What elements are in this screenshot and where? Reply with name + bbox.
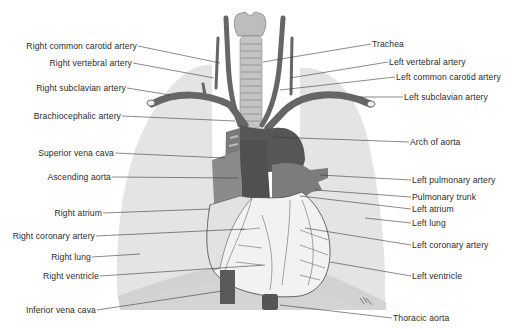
label-pulmonary-trunk: Pulmonary trunk — [412, 192, 476, 202]
label-brachiocephalic-artery: Brachiocephalic artery — [34, 111, 121, 121]
label-trachea: Trachea — [372, 39, 404, 49]
label-right-vertebral-artery: Right vertebral artery — [50, 58, 132, 68]
label-left-vertebral-artery: Left vertebral artery — [389, 57, 466, 67]
left-vertebral — [291, 38, 292, 94]
label-left-pulmonary-artery: Left pulmonary artery — [412, 175, 495, 185]
thoracic-aorta-shape — [262, 294, 278, 310]
label-right-atrium: Right atrium — [54, 208, 102, 218]
label-left-coronary-artery: Left coronary artery — [412, 240, 489, 250]
label-right-common-carotid-artery: Right common carotid artery — [26, 41, 137, 51]
trachea-shape — [234, 12, 266, 128]
label-arch-of-aorta: Arch of aorta — [410, 137, 461, 147]
label-left-common-carotid-artery: Left common carotid artery — [396, 72, 501, 82]
label-right-ventricle: Right ventricle — [43, 271, 99, 281]
label-right-coronary-artery: Right coronary artery — [13, 231, 95, 241]
label-inferior-vena-cava: Inferior vena cava — [26, 305, 96, 315]
label-left-lung: Left lung — [412, 218, 446, 228]
label-right-lung: Right lung — [51, 252, 91, 262]
label-thoracic-aorta: Thoracic aorta — [393, 313, 449, 323]
left-common-carotid — [262, 18, 283, 125]
anatomy-diagram: Right common carotid artery Right verteb… — [0, 0, 512, 329]
label-ascending-aorta: Ascending aorta — [47, 172, 111, 182]
label-right-subclavian-artery: Right subclavian artery — [36, 83, 126, 93]
inferior-vena-cava-shape — [220, 270, 235, 304]
label-left-subclavian-artery: Left subclavian artery — [404, 92, 488, 102]
right-vertebral — [216, 38, 218, 88]
label-left-ventricle: Left ventricle — [412, 271, 462, 281]
ascending-aorta-shape — [240, 140, 270, 202]
label-left-atrium: Left atrium — [412, 204, 454, 214]
label-superior-vena-cava: Superior vena cava — [38, 148, 114, 158]
